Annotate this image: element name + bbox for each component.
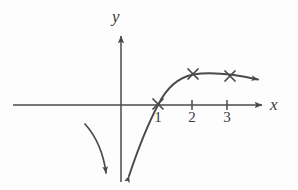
x-tick-label-2: 2 <box>185 110 199 125</box>
x-axis-label: x <box>270 96 278 113</box>
graph-canvas <box>0 0 298 190</box>
marker-x-intercept <box>153 99 163 109</box>
marker-tail-point <box>225 71 235 81</box>
x-tick-label-1: 1 <box>151 110 165 125</box>
y-axis-label: y <box>112 8 120 25</box>
x-tick-label-3: 3 <box>220 110 234 125</box>
figure-container: y x 1 2 3 <box>0 0 298 190</box>
pointer-arrow-annotation <box>85 124 106 173</box>
